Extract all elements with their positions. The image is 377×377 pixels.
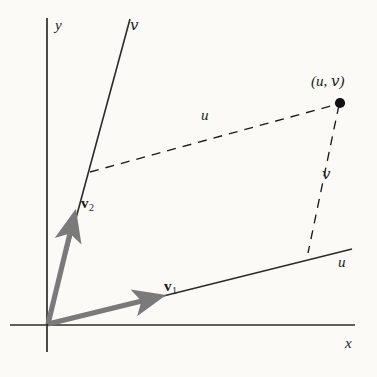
point-label-close-paren: ) — [339, 73, 344, 89]
point-label-comma: , — [324, 73, 332, 89]
figure-canvas: y v x u u v (u, v) v2 v1 — [0, 0, 377, 377]
point-uv-label: (u, v) — [311, 74, 344, 89]
vector-v1-arrow — [48, 299, 150, 324]
vector-v2-label: v2 — [81, 196, 94, 213]
x-axis-label: x — [345, 336, 352, 351]
dashed-v-segment-label: v — [322, 167, 330, 182]
vector-v2-subscript: 2 — [89, 202, 94, 213]
dashed-u-segment-label: u — [201, 108, 209, 123]
y-axis-label: y — [55, 18, 62, 33]
dashed-u-segment — [90, 104, 338, 172]
u-axis-label: u — [338, 255, 346, 270]
vector-v2-arrow — [48, 225, 72, 324]
point-label-u: u — [316, 73, 324, 89]
point-uv-dot — [335, 98, 345, 108]
vector-v1-label: v1 — [164, 279, 177, 296]
vector-v1-subscript: 1 — [172, 285, 177, 296]
diagram-svg — [0, 0, 377, 377]
v-axis-label: v — [130, 18, 138, 33]
vector-v2-base: v — [81, 195, 89, 211]
vector-v1-base: v — [164, 278, 172, 294]
